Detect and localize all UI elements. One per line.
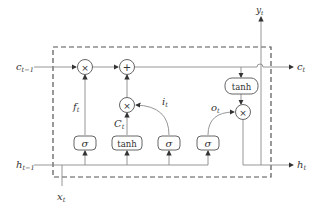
svg-text:σ: σ	[166, 138, 174, 149]
c-prev-label: ct−1	[16, 61, 34, 74]
input-gate-box: σ	[158, 136, 180, 150]
candidate-tanh-box: tanh	[112, 136, 142, 150]
input-gate-curve	[136, 105, 169, 135]
candidate-output-label: Ct	[114, 118, 125, 131]
h-prev-label: ht−1	[16, 159, 35, 172]
output-gate-output-label: ot	[211, 102, 220, 115]
svg-text:×: ×	[81, 63, 89, 73]
output-gate-box: σ	[197, 136, 219, 150]
svg-text:×: ×	[123, 101, 131, 111]
svg-text:+: +	[123, 62, 131, 73]
c-out-line	[134, 64, 293, 67]
cell-tanh-box: tanh	[225, 78, 258, 94]
forget-multiply-node: ×	[78, 60, 93, 75]
input-gate-output-label: it	[162, 96, 168, 109]
c-out-label: ct	[297, 61, 306, 74]
svg-text:tanh: tanh	[117, 139, 137, 149]
input-multiply-node: ×	[120, 98, 135, 113]
output-multiply-node: ×	[236, 105, 251, 120]
add-node: +	[120, 60, 135, 75]
lstm-diagram: × + × × σ tanh σ σ tanh ct−1 ht−1 xt ct …	[0, 0, 317, 217]
h-out-line	[243, 120, 293, 165]
h-out-label: ht	[297, 159, 306, 172]
svg-text:σ: σ	[205, 138, 213, 149]
x-label: xt	[57, 191, 66, 204]
y-out-label: yt	[255, 5, 264, 16]
forget-output-label: ft	[72, 101, 80, 114]
svg-text:tanh: tanh	[232, 82, 252, 92]
output-gate-curve	[208, 112, 234, 135]
svg-text:×: ×	[239, 108, 247, 118]
svg-text:σ: σ	[82, 138, 90, 149]
forget-gate-box: σ	[74, 136, 96, 150]
